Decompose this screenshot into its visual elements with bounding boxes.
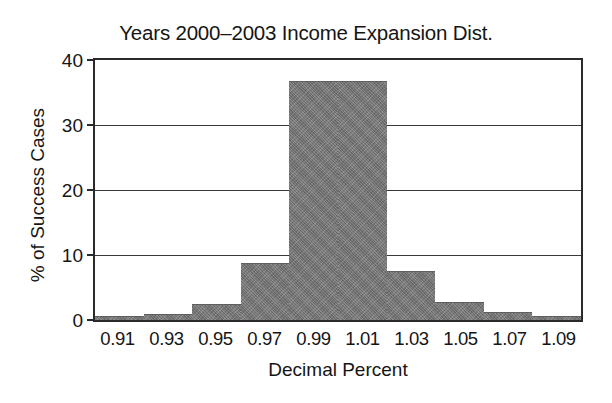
x-tick-label-7: 1.05 bbox=[436, 328, 485, 350]
x-tick-label-2: 0.95 bbox=[191, 328, 240, 350]
bar-slot bbox=[338, 60, 387, 320]
chart-figure: Years 2000–2003 Income Expansion Dist. %… bbox=[0, 0, 612, 403]
plot-area: 010203040 bbox=[93, 58, 583, 322]
x-tick-label-9: 1.09 bbox=[534, 328, 583, 350]
y-tick-mark-20 bbox=[87, 189, 94, 191]
bar-slot bbox=[192, 60, 241, 320]
x-axis-tick-labels: 0.910.930.950.970.991.011.031.051.071.09 bbox=[93, 328, 583, 350]
y-tick-label-20: 20 bbox=[13, 181, 83, 200]
y-tick-mark-40 bbox=[87, 59, 94, 61]
bar-1.05 bbox=[435, 302, 484, 320]
bar-0.97 bbox=[241, 263, 290, 320]
bar-slot bbox=[144, 60, 193, 320]
x-tick-label-0: 0.91 bbox=[93, 328, 142, 350]
x-tick-label-3: 0.97 bbox=[240, 328, 289, 350]
bar-series bbox=[95, 60, 581, 320]
x-tick-label-5: 1.01 bbox=[338, 328, 387, 350]
y-tick-mark-0 bbox=[87, 319, 94, 321]
y-tick-label-0: 0 bbox=[13, 311, 83, 330]
bar-0.99 bbox=[289, 81, 338, 320]
x-axis-title: Decimal Percent bbox=[93, 358, 583, 381]
bar-0.93 bbox=[144, 314, 193, 321]
x-tick-label-4: 0.99 bbox=[289, 328, 338, 350]
bar-0.91 bbox=[95, 316, 144, 320]
x-tick-label-6: 1.03 bbox=[387, 328, 436, 350]
bar-1.01 bbox=[338, 81, 387, 320]
bar-1.03 bbox=[387, 271, 436, 320]
bar-slot bbox=[241, 60, 290, 320]
bar-slot bbox=[95, 60, 144, 320]
bar-slot bbox=[484, 60, 533, 320]
chart-title: Years 2000–2003 Income Expansion Dist. bbox=[0, 21, 612, 45]
bar-0.95 bbox=[192, 304, 241, 320]
y-tick-mark-30 bbox=[87, 124, 94, 126]
y-tick-label-40: 40 bbox=[13, 51, 83, 70]
bar-slot bbox=[435, 60, 484, 320]
x-tick-label-1: 0.93 bbox=[142, 328, 191, 350]
bar-slot bbox=[532, 60, 581, 320]
bar-1.09 bbox=[532, 316, 581, 320]
y-tick-label-10: 10 bbox=[13, 246, 83, 265]
y-tick-label-30: 30 bbox=[13, 116, 83, 135]
bar-slot bbox=[289, 60, 338, 320]
y-tick-mark-10 bbox=[87, 254, 94, 256]
bar-slot bbox=[387, 60, 436, 320]
x-tick-label-8: 1.07 bbox=[485, 328, 534, 350]
bar-1.07 bbox=[484, 312, 533, 320]
